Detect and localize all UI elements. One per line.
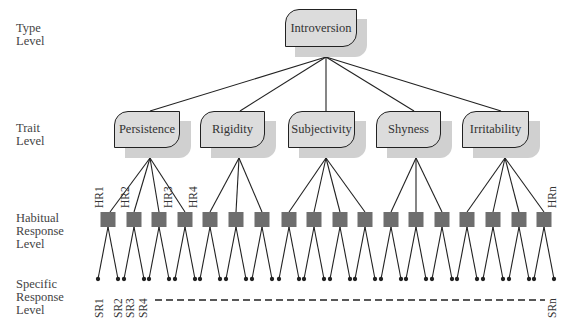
specific-response-node xyxy=(322,277,325,280)
specific-response-node xyxy=(250,277,253,280)
specific-response-node xyxy=(455,277,458,280)
specific-response-node xyxy=(302,277,305,280)
trait-label: Irritability xyxy=(462,111,529,148)
specific-response-node xyxy=(218,277,221,280)
specific-response-node xyxy=(193,277,196,280)
habitual-response-node xyxy=(358,212,373,227)
habitual-response-node xyxy=(512,212,527,227)
habitual-response-node xyxy=(384,212,399,227)
specific-response-node xyxy=(450,277,453,280)
specific-response-node xyxy=(198,277,201,280)
habitual-response-squares xyxy=(101,212,552,227)
specific-response-node xyxy=(379,277,382,280)
habitual-response-node xyxy=(486,212,501,227)
specific-response-node xyxy=(224,277,227,280)
specific-response-node xyxy=(122,277,125,280)
specific-response-node xyxy=(373,277,376,280)
sr3-label: SR3 xyxy=(124,298,136,318)
hierarchy-lines xyxy=(0,0,574,335)
habitual-response-node xyxy=(203,212,218,227)
trait-label: Persistence xyxy=(114,111,180,148)
specific-response-node xyxy=(297,277,300,280)
specific-response-node xyxy=(328,277,331,280)
trait-label: Shyness xyxy=(376,111,441,148)
habitual-response-node xyxy=(127,212,142,227)
habitual-response-node xyxy=(282,212,297,227)
specific-response-node xyxy=(475,277,478,280)
sr1-label: SR1 xyxy=(93,298,105,318)
habitual-response-node xyxy=(460,212,475,227)
trait-label: Subjectivity xyxy=(288,111,355,148)
specific-response-node xyxy=(424,277,427,280)
specific-response-legs xyxy=(96,227,555,281)
specific-response-node xyxy=(552,277,555,280)
habitual-response-node xyxy=(333,212,348,227)
specific-response-node xyxy=(96,277,99,280)
specific-response-node xyxy=(167,277,170,280)
specific-response-node xyxy=(173,277,176,280)
hr4-label: HR4 xyxy=(187,186,199,208)
specific-response-node xyxy=(430,277,433,280)
habitual-response-node xyxy=(537,212,552,227)
specific-response-node xyxy=(507,277,510,280)
habitual-response-node xyxy=(255,212,270,227)
habitual-response-node xyxy=(101,212,116,227)
habitual-response-node xyxy=(409,212,424,227)
specific-response-node xyxy=(277,277,280,280)
habitual-response-node xyxy=(152,212,167,227)
type-node-label: Introversion xyxy=(285,9,357,47)
hr3-label: HR3 xyxy=(162,186,174,208)
sr2-label: SR2 xyxy=(112,298,124,318)
habitual-response-node xyxy=(229,212,244,227)
sr4-label: SR4 xyxy=(137,298,149,318)
srn-label: SRn xyxy=(546,298,558,318)
specific-response-node xyxy=(532,277,535,280)
specific-response-node xyxy=(348,277,351,280)
specific-response-node xyxy=(527,277,530,280)
specific-response-node xyxy=(501,277,504,280)
trait-label: Rigidity xyxy=(200,111,265,148)
hrn-label: HRn xyxy=(546,186,558,208)
habitual-response-node xyxy=(178,212,193,227)
specific-response-node xyxy=(270,277,273,280)
hr2-label: HR2 xyxy=(119,186,131,208)
specific-response-node xyxy=(399,277,402,280)
specific-response-node xyxy=(353,277,356,280)
specific-response-node xyxy=(481,277,484,280)
habitual-response-node xyxy=(307,212,322,227)
specific-response-node xyxy=(142,277,145,280)
specific-response-node xyxy=(147,277,150,280)
specific-response-node xyxy=(244,277,247,280)
specific-response-node xyxy=(116,277,119,280)
hr1-label: HR1 xyxy=(93,186,105,208)
specific-response-node xyxy=(404,277,407,280)
habitual-response-node xyxy=(435,212,450,227)
